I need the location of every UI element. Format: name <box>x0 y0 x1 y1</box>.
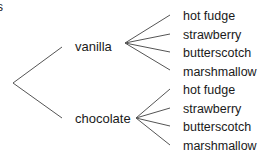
leaf-chocolate-strawberry: strawberry <box>183 102 242 116</box>
leaf-chocolate-marshmallow: marshmallow <box>183 139 258 153</box>
tree-labels: vanillahot fudgestrawberrybutterscotchma… <box>75 9 258 153</box>
leaf-edge-chocolate-hot-fudge <box>136 89 170 118</box>
leaf-chocolate-hot-fudge: hot fudge <box>183 83 235 97</box>
leaf-vanilla-strawberry: strawberry <box>183 28 242 42</box>
leaf-chocolate-butterscotch: butterscotch <box>183 120 251 134</box>
leaf-vanilla-marshmallow: marshmallow <box>183 65 258 79</box>
node-vanilla: vanilla <box>75 39 113 54</box>
clipped-text-fragment: s <box>0 0 3 14</box>
leaf-vanilla-hot-fudge: hot fudge <box>183 9 235 23</box>
leaf-vanilla-butterscotch: butterscotch <box>183 46 251 60</box>
node-chocolate: chocolate <box>75 111 131 126</box>
tree-diagram: s vanillahot fudgestrawberrybutterscotch… <box>0 0 265 161</box>
root-edge-vanilla <box>13 47 62 83</box>
root-edge-chocolate <box>13 83 62 118</box>
